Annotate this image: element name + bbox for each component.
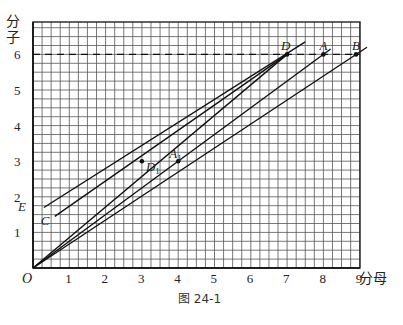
line-CD (55, 54, 287, 216)
x-tick-label: 5 (211, 271, 218, 286)
point-label-d: D (280, 38, 291, 53)
diagram-points: DABD1A1EC (17, 38, 360, 228)
y-axis-label-top: 分 (6, 14, 20, 29)
figure-caption: 图 24-1 (178, 292, 221, 306)
y-axis-label-bottom: 子 (6, 30, 20, 45)
line-ED (44, 42, 305, 208)
y-tick-label: 5 (14, 83, 21, 98)
diagram-lines (33, 42, 367, 268)
x-axis-label: 分母 (359, 271, 387, 286)
point-label-a1: A1 (168, 146, 181, 163)
y-tick-label: 2 (14, 190, 21, 205)
point-label-c: C (41, 213, 50, 228)
point-label-b: B (352, 38, 360, 53)
line-OA (33, 49, 331, 268)
point-d1-marker (140, 159, 145, 164)
x-tick-label: 3 (138, 271, 145, 286)
y-tick-label: 6 (14, 47, 21, 62)
x-tick-label: 4 (174, 271, 181, 286)
fraction-grid-diagram: DABD1A1EC 123456789123456 分 子 O 分母 图 24-… (0, 0, 403, 325)
origin-label: O (22, 271, 32, 286)
y-tick-label: 1 (14, 225, 21, 240)
y-tick-label: 4 (14, 119, 21, 134)
x-tick-label: 8 (319, 271, 326, 286)
point-label-d1: D1 (145, 159, 160, 176)
y-tick-label: 3 (14, 154, 21, 169)
x-tick-label: 2 (102, 271, 109, 286)
point-label-a: A (318, 38, 327, 53)
x-tick-label: 1 (65, 271, 72, 286)
x-tick-label: 7 (283, 271, 290, 286)
line-OB (33, 47, 367, 268)
x-tick-label: 6 (247, 271, 254, 286)
